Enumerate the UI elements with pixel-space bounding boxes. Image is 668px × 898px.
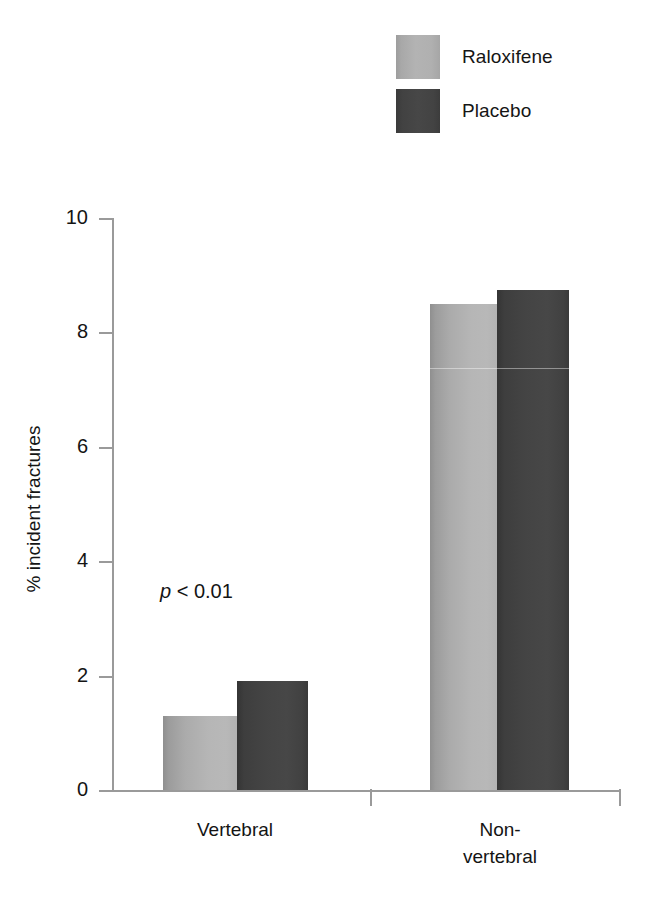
- x-group-label-vertebral-line1: Vertebral: [175, 816, 295, 843]
- bar-nonvertebral-raloxifene: [430, 304, 497, 790]
- p-value-symbol: p: [160, 580, 171, 602]
- bar-nonvertebral-placebo: [497, 290, 569, 791]
- bar-vertebral-placebo: [237, 681, 308, 790]
- p-value-comparison: < 0.01: [171, 580, 233, 602]
- p-value-annotation: p < 0.01: [160, 580, 233, 603]
- plot-area: 10 8 6 4 2 0 % incident fractures: [0, 0, 668, 898]
- x-axis-line: [100, 790, 621, 792]
- x-tick-group-separator: [370, 789, 372, 806]
- bar-vertebral-raloxifene: [163, 716, 237, 790]
- x-group-label-nonvertebral-line1: Non-: [440, 816, 560, 843]
- x-group-label-nonvertebral-line2: vertebral: [440, 843, 560, 870]
- fracture-incidence-bar-chart: Raloxifene Placebo 10 8 6 4 2: [0, 0, 668, 898]
- x-tick-axis-end: [619, 789, 621, 806]
- bars-layer: [0, 0, 668, 790]
- scan-artifact-line: [430, 368, 569, 369]
- x-group-label-vertebral: Vertebral: [175, 816, 295, 843]
- y-tick-0: [99, 790, 113, 792]
- x-group-label-nonvertebral: Non- vertebral: [440, 816, 560, 870]
